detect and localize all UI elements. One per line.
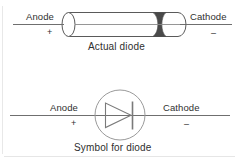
anode-label-symbol: Anode	[50, 103, 78, 113]
caption-diode-symbol: Symbol for diode	[74, 143, 151, 153]
cathode-label-actual: Cathode	[190, 12, 227, 22]
diode-body	[62, 13, 186, 37]
cathode-polarity-sign-symbol: –	[184, 120, 189, 129]
cathode-polarity-sign-actual: –	[211, 29, 216, 38]
diode-figure: Anode + Cathode – Actual diode Anode + C…	[0, 0, 239, 160]
diode-diagram-canvas	[0, 0, 239, 160]
anode-label-actual: Anode	[26, 12, 54, 22]
anode-polarity-sign-actual: +	[47, 28, 52, 37]
anode-polarity-sign-symbol: +	[71, 119, 76, 128]
cathode-label-symbol: Cathode	[163, 103, 200, 113]
caption-actual-diode: Actual diode	[88, 42, 145, 52]
